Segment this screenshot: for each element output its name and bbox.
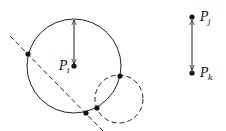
point-pk bbox=[189, 70, 194, 75]
point-left bbox=[25, 51, 30, 56]
dashed-line bbox=[10, 36, 103, 131]
label-pj: Pj bbox=[199, 10, 211, 26]
point-line-low bbox=[83, 110, 88, 115]
point-intersect-low bbox=[94, 105, 99, 110]
point-right bbox=[117, 73, 122, 78]
point-pi bbox=[71, 63, 76, 68]
dashed-circle bbox=[95, 75, 143, 123]
point-pj bbox=[189, 14, 194, 19]
label-pk: Pk bbox=[199, 66, 213, 82]
label-pi: Pi bbox=[58, 59, 70, 75]
diagram-canvas: Pi Pj Pk bbox=[0, 0, 226, 131]
